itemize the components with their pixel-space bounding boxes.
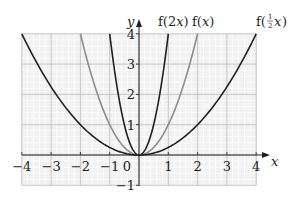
y-tick-label: 1 [127, 118, 135, 133]
y-tick-label: 2 [127, 87, 135, 102]
svg-text:f(: f( [256, 14, 266, 29]
svg-text:x: x [274, 14, 282, 29]
x-tick-label: −2 [71, 159, 90, 174]
x-tick-label: 1 [164, 159, 172, 174]
chart: −4−3−2−101234 −11234 x y f(2x) f(x) f( 1… [0, 0, 291, 201]
x-tick-label: −1 [100, 159, 119, 174]
svg-text:2: 2 [268, 22, 272, 30]
x-axis-arrow-icon [262, 152, 270, 158]
y-axis-arrow-icon [136, 19, 142, 27]
x-tick-label: −3 [42, 159, 61, 174]
y-tick-label: 4 [127, 27, 135, 42]
x-axis-label: x [271, 154, 279, 169]
y-tick-label: 3 [127, 57, 135, 72]
x-tick-label: 3 [223, 159, 231, 174]
curve-label-fx: f(x) [192, 14, 214, 29]
y-axis-label: y [126, 14, 135, 29]
x-tick-label: 4 [252, 159, 260, 174]
x-tick-label: 0 [123, 159, 131, 174]
svg-text:1: 1 [268, 13, 272, 21]
svg-text:): ) [282, 14, 287, 29]
x-tick-label: −4 [12, 159, 31, 174]
curve-label-f2x: f(2x) [158, 14, 189, 29]
curve-label-fhalfx: f( 1 2 x ) [256, 13, 287, 30]
x-tick-label: 2 [193, 159, 201, 174]
y-tick-label: −1 [116, 178, 135, 193]
